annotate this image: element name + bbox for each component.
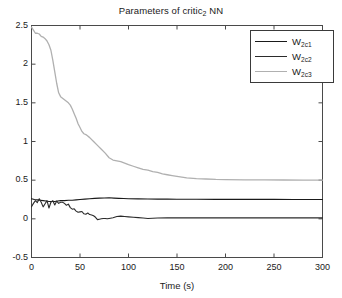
chart-figure: Parameters of critic2 NN -0.500.511.522.… (0, 0, 342, 298)
legend-item-label: W2c1 (292, 36, 312, 48)
legend-label-base: W (292, 66, 301, 77)
series-line-W2c2 (32, 199, 323, 220)
legend-label-subscript: 2c1 (301, 40, 312, 47)
legend-item-label: W2c2 (292, 51, 312, 63)
legend-line-swatch (255, 41, 287, 42)
legend-line-swatch (255, 56, 287, 57)
legend-label-base: W (292, 36, 301, 47)
y-tick-label: 1.5 (0, 97, 28, 107)
series-line-W2c1 (32, 198, 323, 202)
x-tick-label: 250 (258, 262, 290, 272)
y-tick-label: -0.5 (0, 252, 28, 262)
y-tick-label: 2.5 (0, 20, 28, 30)
x-tick-label: 150 (161, 262, 193, 272)
legend-label-subscript: 2c3 (301, 70, 312, 77)
x-tick-label: 0 (16, 262, 48, 272)
x-axis-title: Time (s) (31, 280, 323, 291)
y-tick-label: 2 (0, 58, 28, 68)
legend-line-swatch (255, 71, 287, 72)
x-tick-label: 300 (307, 262, 339, 272)
x-tick-label: 50 (64, 262, 96, 272)
legend-item-W2c1: W2c1 (251, 34, 333, 49)
legend-item-label: W2c3 (292, 66, 312, 78)
legend-item-W2c2: W2c2 (251, 49, 333, 64)
y-tick-label: 1 (0, 136, 28, 146)
legend-item-W2c3: W2c3 (251, 64, 333, 79)
y-tick-label: 0 (0, 213, 28, 223)
legend-label-subscript: 2c2 (301, 55, 312, 62)
y-tick-label: 0.5 (0, 174, 28, 184)
x-tick-label: 100 (113, 262, 145, 272)
chart-legend: W2c1W2c2W2c3 (250, 30, 334, 83)
legend-label-base: W (292, 51, 301, 62)
x-tick-label: 200 (210, 262, 242, 272)
